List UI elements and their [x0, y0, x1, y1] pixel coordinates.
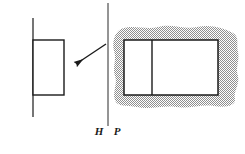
diagram-canvas: H P: [0, 0, 245, 154]
image-rectangle: [124, 40, 218, 95]
axis-label-p: P: [114, 125, 121, 137]
direction-arrow: [76, 44, 106, 64]
axis-label-h: H: [94, 125, 104, 137]
figure-container: H P: [0, 0, 245, 154]
object-rectangle: [33, 40, 64, 95]
